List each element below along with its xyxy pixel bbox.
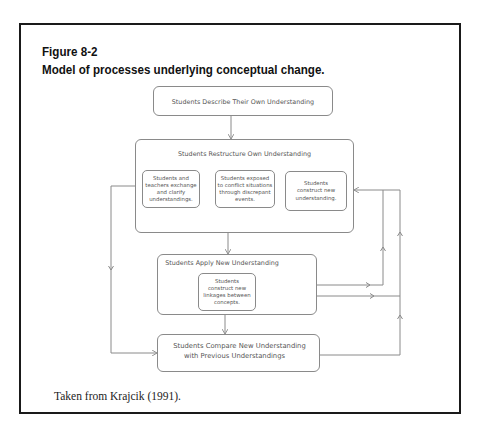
- node-compare: Students Compare New Understanding with …: [157, 334, 320, 372]
- node-restructure-child-exchange: Students and teachers exchange and clari…: [142, 170, 200, 208]
- node-apply-label: Students Apply New Understanding: [128, 259, 316, 267]
- node-restructure-child-construct: Students construct new understanding.: [285, 171, 347, 211]
- node-restructure-child-conflict: Students exposed to conflict situations …: [215, 170, 275, 208]
- node-apply-child-linkages: Students construct new linkages between …: [198, 273, 256, 311]
- figure-caption: Taken from Krajcik (1991).: [54, 390, 181, 402]
- node-restructure-label: Students Restructure Own Understanding: [136, 150, 353, 158]
- node-compare-label-line1: Students Compare New Understanding: [160, 342, 319, 350]
- node-describe-label: Students Describe Their Own Understandin…: [154, 98, 332, 106]
- node-describe: Students Describe Their Own Understandin…: [153, 86, 333, 116]
- node-compare-label-line2: with Previous Understandings: [150, 352, 319, 360]
